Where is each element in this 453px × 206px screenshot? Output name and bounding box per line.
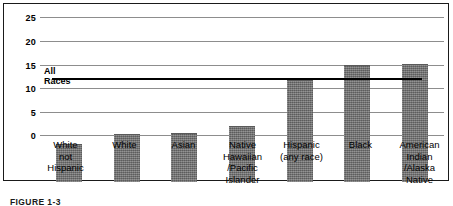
- x-label-white-not-hispanic: White not Hispanic: [36, 139, 95, 174]
- x-label-black: Black: [331, 139, 390, 151]
- x-label-hispanic: Hispanic (any race): [272, 139, 331, 162]
- y-tick-5: 5: [12, 109, 36, 118]
- y-tick-15: 15: [12, 62, 36, 71]
- y-tick-20: 20: [12, 38, 36, 47]
- figure-caption: FIGURE 1-3: [10, 197, 61, 206]
- x-label-asian: Asian: [154, 139, 213, 151]
- x-label-american-indian-alaska-native: American Indian /Alaska Native: [390, 139, 449, 185]
- y-tick-0: 0: [12, 132, 36, 141]
- all-races-label: All Races: [44, 66, 71, 86]
- x-label-white: White: [95, 139, 154, 151]
- figure-root: 25 20 15 10 5 0: [0, 0, 453, 206]
- y-tick-25: 25: [12, 14, 36, 23]
- y-tick-10: 10: [12, 85, 36, 94]
- x-axis-labels: White not Hispanic White Asian Native Ha…: [36, 139, 449, 201]
- x-label-native-hawaiian-pacific-islander: Native Hawaiian /Pacific Islander: [213, 139, 272, 185]
- y-axis: 25 20 15 10 5 0: [4, 4, 36, 182]
- all-races-reference-line: [52, 78, 422, 80]
